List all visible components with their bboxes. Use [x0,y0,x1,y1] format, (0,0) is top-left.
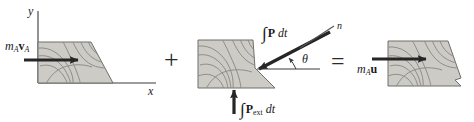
impulse-momentum-figure: y x mAvA + ∫Pdt n θ ∫Pextdt = mAu [0,0,474,122]
label-impulse-external-force-sub: ext [253,108,263,117]
label-right-momentum: mAu [357,63,377,77]
label-right-momentum-m: m [357,62,366,76]
label-impulse-external-dt: dt [266,102,275,116]
label-angle-theta: θ [302,53,308,65]
label-right-momentum-u: u [371,62,378,76]
integral-sign-external: ∫ [240,99,245,119]
label-impulse-external: ∫Pextdt [240,101,275,118]
label-left-momentum: mAvA [5,40,29,54]
label-left-momentum-m: m [5,39,14,53]
body-shape-left [38,40,116,90]
plus-sign: + [164,47,179,73]
integral-sign-contact: ∫ [262,23,267,43]
label-impulse-contact-dt: dt [278,26,287,40]
body-shape-right [388,40,468,91]
label-normal-vector: n [337,21,342,31]
label-impulse-contact-force: P [268,26,275,40]
label-impulse-contact: ∫Pdt [262,25,287,42]
axis-label-y: y [28,5,33,17]
label-left-momentum-v-sub: A [25,45,30,54]
axis-label-x: x [148,85,153,97]
label-impulse-external-force: P [246,102,253,116]
figure-graphics [0,0,474,122]
normal-direction-line [300,26,334,48]
equals-sign: = [331,49,345,73]
